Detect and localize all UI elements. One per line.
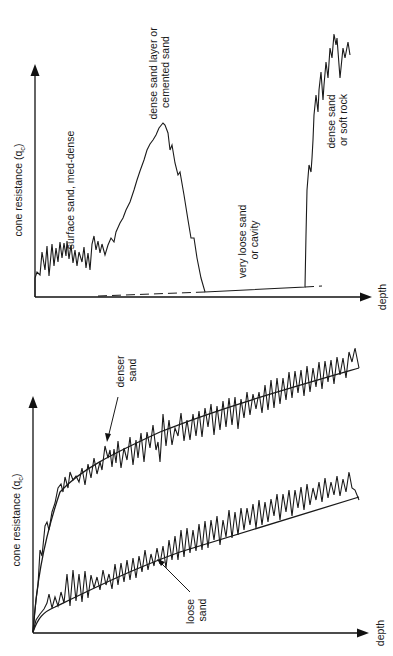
top-x-axis-label: depth [376,284,388,310]
top-x-axis-arrow-icon [360,293,372,302]
label-dense-sand-soft-rock: dense sand or soft rock [325,91,349,148]
bottom-y-axis-arrow-icon [29,396,38,408]
top-dashed-baseline [98,292,205,296]
denser-sand-profile [33,348,359,632]
top-cpt-profile [35,34,350,297]
denser-sand-trend [33,368,359,632]
bottom-x-axis-label: depth [374,620,386,646]
bottom-panel: cone resistance (qc) depth denser sand l… [10,348,386,646]
top-panel: cone resistance (qc) depth surface sand,… [12,24,388,310]
denser-sand-pointer [108,397,118,438]
denser-sand-pointer-arrow-icon [105,433,111,442]
bottom-y-axis-label: cone resistance (qc) [10,473,25,566]
label-very-loose-sand: very loose sand or cavity [236,202,260,278]
label-dense-sand-layer: dense sand layer or cemented sand [147,24,171,119]
bottom-x-axis-arrow-icon [357,629,369,638]
label-surface-sand: surface sand, med-dense [64,131,76,250]
loose-sand-pointer [160,562,190,592]
cpt-diagram: cone resistance (qc) depth surface sand,… [0,0,393,656]
top-y-axis-label: cone resistance (qc) [12,143,27,236]
label-loose-sand: loose sand [184,596,208,624]
label-denser-sand: denser sand [114,352,138,387]
top-y-axis-arrow-icon [31,64,40,76]
top-dashed-baseline-end [305,286,322,287]
